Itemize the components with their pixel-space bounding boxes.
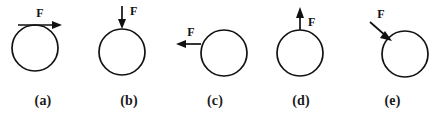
force-label-c: F <box>187 25 194 39</box>
panel-b: F (b) <box>86 0 172 115</box>
force-label-b: F <box>130 4 137 18</box>
force-diagram-figure: F (a) F (b) F (c) F (d) <box>0 0 441 115</box>
circle-b <box>99 29 145 75</box>
circle-a <box>12 25 58 71</box>
force-arrow-d-head <box>296 7 304 18</box>
force-label-a: F <box>36 6 43 20</box>
panel-label-d: (d) <box>258 93 344 109</box>
panel-a-graphic: F <box>0 0 86 90</box>
force-arrow-c-head <box>176 40 186 48</box>
panel-label-a: (a) <box>0 93 86 109</box>
panel-d: F (d) <box>258 0 344 115</box>
panel-a: F (a) <box>0 0 86 115</box>
panel-e-graphic: F <box>344 0 441 90</box>
force-arrow-b-head <box>118 19 126 29</box>
circle-d <box>277 30 323 76</box>
force-label-d: F <box>308 15 315 29</box>
panel-e: F (e) <box>344 0 441 115</box>
panel-label-e: (e) <box>344 93 441 109</box>
panel-c-graphic: F <box>172 0 258 90</box>
force-label-e: F <box>377 7 384 21</box>
panel-label-c: (c) <box>172 93 258 109</box>
panel-label-b: (b) <box>86 93 172 109</box>
panel-c: F (c) <box>172 0 258 115</box>
panel-d-graphic: F <box>258 0 344 90</box>
circle-c <box>201 30 247 76</box>
panel-b-graphic: F <box>86 0 172 90</box>
force-arrow-a-head <box>52 21 62 29</box>
